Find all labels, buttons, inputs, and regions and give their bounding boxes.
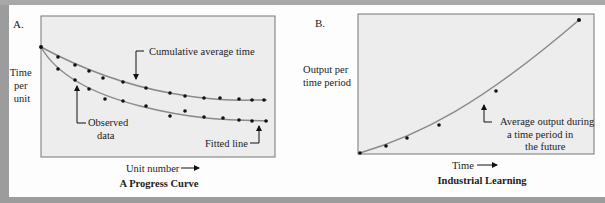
panel-a: A. Time per unit Cumulative average time bbox=[10, 16, 275, 189]
panel-b-xlabel: Time bbox=[452, 160, 474, 171]
cumulative-average-label: Cumulative average time bbox=[149, 46, 255, 57]
observed-data-label-line1: Observed bbox=[88, 117, 129, 128]
panel-b-title: Industrial Learning bbox=[438, 175, 528, 186]
panel-a-ylabel: Time per unit bbox=[10, 67, 34, 104]
panel-a-xlabel: Unit number bbox=[126, 163, 180, 174]
panel-a-plot-area bbox=[41, 16, 275, 157]
panel-b-label: B. bbox=[315, 17, 325, 29]
panel-a-title: A Progress Curve bbox=[120, 178, 199, 189]
panel-a-label: A. bbox=[13, 18, 24, 30]
panel-b-ylabel: Output per time period bbox=[303, 64, 352, 88]
panel-b: B. Output per time period Average output… bbox=[303, 14, 595, 186]
average-output-label-line2: a time period in bbox=[507, 129, 574, 140]
figure-svg: A. Time per unit Cumulative average time bbox=[0, 0, 605, 203]
average-output-label-line1: Average output during bbox=[500, 116, 595, 127]
observed-data-label-line2: data bbox=[97, 130, 115, 141]
fitted-line-label: Fitted line bbox=[205, 138, 248, 149]
average-output-label-line3: the future bbox=[525, 141, 566, 152]
